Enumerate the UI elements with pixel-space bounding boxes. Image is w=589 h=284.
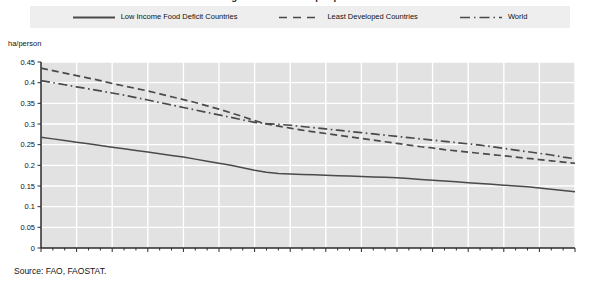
y-tick-label: 0.3 — [25, 120, 35, 129]
figure-title: Figure: Arable land per person — [0, 0, 589, 2]
legend-item-world[interactable]: World — [460, 13, 527, 22]
x-tick-label: 1999 — [460, 254, 477, 255]
legend-swatch-dashed-icon — [279, 13, 321, 22]
legend-label-lifdc: Low Income Food Deficit Countries — [121, 13, 238, 21]
legend-swatch-dashdot-icon — [460, 13, 502, 22]
legend-swatch-solid-icon — [73, 13, 115, 22]
chart-svg: 00.050.10.150.20.250.30.350.40.451963196… — [0, 50, 589, 255]
x-tick-label: 1975 — [175, 254, 192, 255]
x-tick-label: 1996 — [424, 254, 441, 255]
x-tick-label: 1993 — [389, 254, 406, 255]
plot-area: 00.050.10.150.20.250.30.350.40.451963196… — [0, 50, 589, 255]
y-axis-unit-label: ha/person — [8, 39, 41, 48]
y-tick-label: 0.2 — [25, 161, 35, 170]
x-tick-label: 1969 — [104, 254, 121, 255]
x-tick-label: 2008 — [567, 254, 584, 255]
x-tick-label: 1987 — [317, 254, 334, 255]
legend-item-lifdc[interactable]: Low Income Food Deficit Countries — [73, 13, 238, 22]
legend-item-ldc[interactable]: Least Developed Countries — [279, 13, 417, 22]
legend-label-ldc: Least Developed Countries — [327, 13, 417, 21]
source-note: Source: FAO, FAOSTAT. — [14, 266, 106, 276]
y-tick-label: 0.4 — [25, 78, 35, 87]
legend-label-world: World — [508, 13, 527, 21]
x-tick-label: 2005 — [531, 254, 548, 255]
x-tick-label: 1978 — [211, 254, 228, 255]
x-tick-label: 1984 — [282, 254, 299, 255]
x-tick-label: 1990 — [353, 254, 370, 255]
y-tick-label: 0 — [31, 244, 35, 253]
x-tick-label: 1963 — [33, 254, 50, 255]
x-tick-label: 1981 — [246, 254, 263, 255]
y-tick-label: 0.35 — [20, 99, 35, 108]
y-tick-label: 0.45 — [20, 58, 35, 67]
chart-legend: Low Income Food Deficit Countries Least … — [30, 6, 570, 28]
y-tick-label: 0.05 — [20, 223, 35, 232]
x-tick-label: 1966 — [68, 254, 85, 255]
y-tick-label: 0.1 — [25, 202, 35, 211]
x-tick-label: 2002 — [495, 254, 512, 255]
x-tick-label: 1972 — [139, 254, 156, 255]
y-tick-label: 0.25 — [20, 140, 35, 149]
y-tick-label: 0.15 — [20, 182, 35, 191]
figure-container: Figure: Arable land per person Low Incom… — [0, 0, 589, 284]
